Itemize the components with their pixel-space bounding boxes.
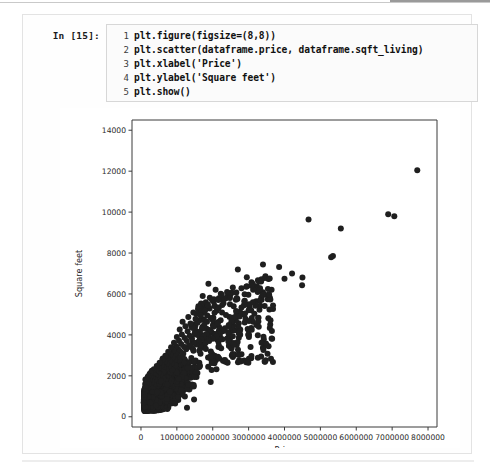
scatter-point — [268, 356, 274, 362]
code-line[interactable]: 4 plt.ylabel('Square feet') — [107, 72, 477, 86]
scatter-point — [245, 292, 251, 298]
scatter-point — [242, 310, 248, 316]
scatter-point — [208, 379, 214, 385]
scatter-point — [190, 309, 196, 315]
code-line[interactable]: 1 plt.figure(figsize=(8,8)) — [107, 30, 477, 44]
code-line-text: plt.show() — [134, 86, 191, 97]
scatter-point — [185, 382, 191, 388]
scatter-point — [154, 389, 160, 395]
scatter-point — [248, 344, 254, 350]
scatter-point — [245, 332, 251, 338]
scatter-point — [244, 274, 250, 280]
scatter-point — [200, 293, 206, 299]
scatter-point — [198, 312, 204, 318]
scatter-point — [153, 403, 159, 409]
scatter-point — [223, 312, 229, 318]
scatter-plot: 02000400060008000100001200014000 0100000… — [60, 108, 460, 448]
scatter-point — [267, 297, 273, 303]
scatter-point — [260, 334, 266, 340]
scatter-point — [282, 276, 288, 282]
y-tick-label: 2000 — [107, 372, 126, 381]
scatter-point — [266, 306, 272, 312]
scatter-point — [414, 167, 420, 173]
scatter-point — [224, 289, 230, 295]
y-tick-label: 6000 — [107, 290, 126, 299]
scatter-point — [180, 319, 186, 325]
scatter-point — [269, 328, 275, 334]
scatter-point — [227, 295, 233, 301]
scatter-point — [195, 303, 201, 309]
scatter-point — [215, 355, 221, 361]
scatter-point — [238, 305, 244, 311]
scatter-point — [266, 291, 272, 297]
scatter-point — [269, 336, 275, 342]
x-tick-label: 1000000 — [160, 433, 194, 442]
scatter-point — [265, 351, 271, 357]
x-axis-label: Price — [275, 445, 295, 448]
scatter-point — [141, 399, 147, 405]
scatter-point — [338, 225, 344, 231]
scatter-point — [213, 287, 219, 293]
scatter-point — [255, 319, 261, 325]
code-line-text: plt.ylabel('Square feet') — [134, 72, 276, 83]
scatter-point — [176, 376, 182, 382]
scatter-point — [391, 213, 397, 219]
scatter-point — [248, 353, 254, 359]
scatter-point — [205, 281, 211, 287]
y-tick-label: 10000 — [102, 208, 126, 217]
code-line[interactable]: 5 plt.show() — [107, 86, 477, 100]
scatter-point — [191, 374, 197, 380]
code-line[interactable]: 2 plt.scatter(dataframe.price, dataframe… — [107, 44, 477, 58]
line-number: 1 — [107, 31, 134, 41]
scatter-point — [191, 358, 197, 364]
y-tick-label: 8000 — [107, 249, 126, 258]
scatter-point — [230, 333, 236, 339]
scatter-point — [235, 347, 241, 353]
y-tick-label: 14000 — [102, 126, 126, 135]
scatter-point — [233, 308, 239, 314]
scatter-point — [177, 327, 183, 333]
scatter-point — [250, 299, 256, 305]
scatter-point — [306, 216, 312, 222]
x-tick-label: 2000000 — [196, 433, 230, 442]
scatter-point — [164, 396, 170, 402]
y-axis-tick-marks — [129, 130, 133, 417]
scatter-point — [249, 327, 255, 333]
x-tick-label: 0 — [139, 433, 144, 442]
scatter-point — [328, 254, 334, 260]
scatter-point — [289, 271, 295, 277]
code-editor[interactable]: 1 plt.figure(figsize=(8,8)) 2 plt.scatte… — [106, 24, 478, 102]
scatter-point — [147, 400, 153, 406]
line-number: 5 — [107, 87, 134, 97]
x-tick-label: 4000000 — [268, 433, 302, 442]
code-line[interactable]: 3 plt.xlabel('Price') — [107, 58, 477, 72]
x-axis-tick-marks — [141, 427, 428, 431]
scatter-point — [267, 317, 273, 323]
scatter-point — [241, 298, 247, 304]
scatter-point — [192, 330, 198, 336]
input-prompt-label: In [15]: — [30, 30, 100, 41]
scatter-point — [238, 285, 244, 291]
scatter-point — [181, 360, 187, 366]
line-number: 2 — [107, 45, 134, 55]
scatter-point — [246, 318, 252, 324]
scan-edge-line-top-right — [390, 0, 490, 2]
scatter-point — [167, 389, 173, 395]
scatter-point — [164, 382, 170, 388]
y-tick-label: 4000 — [107, 331, 126, 340]
scatter-point — [225, 339, 231, 345]
scatter-point — [212, 310, 218, 316]
scatter-point — [258, 279, 264, 285]
code-line-text: plt.xlabel('Price') — [134, 58, 242, 69]
y-axis-label: Square feet — [74, 249, 84, 297]
x-tick-label: 8000000 — [411, 433, 445, 442]
scatter-point — [175, 394, 181, 400]
notebook-cell: In [15]: 1 plt.figure(figsize=(8,8)) 2 p… — [0, 8, 490, 468]
scatter-point — [234, 295, 240, 301]
scatter-point — [258, 353, 264, 359]
scatter-point — [299, 282, 305, 288]
scatter-point — [193, 316, 199, 322]
x-axis-tick-labels: 0100000020000003000000400000050000006000… — [139, 433, 446, 442]
scatter-point — [202, 308, 208, 314]
scatter-point — [203, 346, 209, 352]
